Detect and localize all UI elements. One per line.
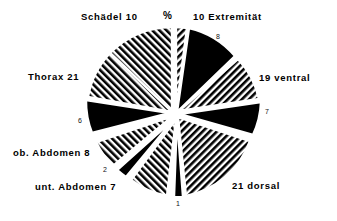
label-ob-abdomen: ob. Abdomen 8 (13, 148, 90, 158)
value-dorsal-black-1: 1 (176, 200, 180, 207)
label-ventral: 19 ventral (259, 73, 310, 83)
label-extremitaet: 10 Extremität (193, 12, 262, 22)
value-extremitaet-black-8: 8 (216, 33, 220, 40)
pie-chart-figure: Schädel 10 % 10 Extremität Thorax 21 19 … (0, 0, 337, 221)
pie-left-half (86, 27, 176, 196)
label-thorax: Thorax 21 (28, 72, 79, 82)
value-ob-abdomen-black-2: 2 (103, 166, 107, 173)
pie-right-half (174, 27, 261, 197)
label-schaedel: Schädel 10 (81, 12, 138, 22)
label-percent-symbol: % (163, 11, 172, 21)
label-dorsal: 21 dorsal (232, 181, 280, 191)
value-thorax-black-6: 6 (78, 117, 82, 124)
label-unt-abdomen: unt. Abdomen 7 (35, 182, 116, 192)
value-ventral-black-7: 7 (265, 108, 269, 115)
